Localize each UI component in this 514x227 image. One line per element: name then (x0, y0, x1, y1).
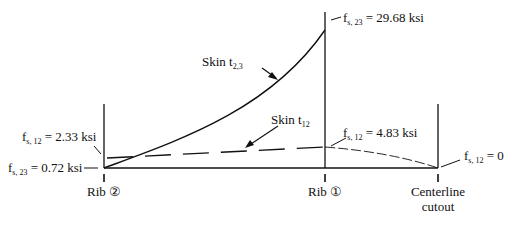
skin-t23-label: Skin t2,3 (202, 54, 243, 71)
skin-t12-leader (248, 126, 278, 146)
fs12-center-leader (441, 160, 460, 167)
rib1-label: Rib ① (308, 184, 342, 199)
skin-t12-curve (107, 147, 325, 158)
fs23-rib1-label: fs, 23 = 29.68 ksi (343, 10, 424, 27)
centerline-label-line1: Centerline (411, 184, 465, 199)
skin-t12-label: Skin t12 (271, 112, 310, 129)
fs12-rib2-label: fs, 12 = 2.33 ksi (22, 129, 97, 146)
fs23-rib1-leader (331, 17, 341, 20)
centerline-label-line2: cutout (422, 199, 455, 214)
fs23-rib2-label: fs, 23 = 0.72 ksi (8, 160, 83, 177)
skin-t23-curve (104, 30, 325, 168)
fs12-rib2-leader (94, 146, 101, 154)
rib2-label: Rib ② (87, 184, 121, 199)
fs12-rib1-label: fs, 12 = 4.83 ksi (343, 125, 418, 142)
fs12-center-label: fs, 12 = 0 (464, 148, 504, 165)
shear-stress-diagram: Skin t2,3 Skin t12 fs, 23 = 29.68 ksi fs… (0, 0, 514, 227)
arrowhead-icon (245, 140, 254, 148)
skin-t12-falloff (325, 147, 438, 168)
